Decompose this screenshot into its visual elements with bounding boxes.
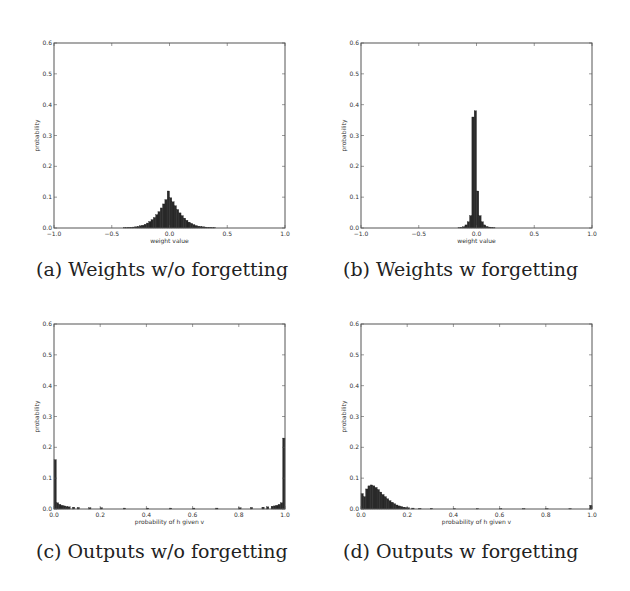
y-axis-label: probability [340, 400, 348, 432]
y-tick-label: 0.3 [349, 413, 359, 420]
y-tick-label: 0.6 [349, 320, 359, 327]
histogram-bar [386, 499, 388, 509]
histogram-bar [384, 497, 386, 509]
y-tick-label: 0.4 [349, 382, 359, 389]
x-tick-label: 1.0 [587, 511, 597, 518]
y-tick-label: 0.5 [349, 351, 359, 358]
panel-d-outputs-with-forgetting: 0.00.10.20.30.40.50.60.00.20.40.60.81.0p… [0, 0, 630, 591]
x-axis-ticks: 0.00.20.40.60.81.0 [356, 324, 597, 518]
y-tick-label: 0.1 [349, 474, 359, 481]
histogram-bar [389, 501, 391, 509]
y-tick-label: 0.2 [349, 443, 359, 450]
x-tick-label: 0.6 [495, 511, 505, 518]
histogram-bar [391, 502, 393, 509]
x-tick-label: 0.0 [356, 511, 366, 518]
caption-d: (d) Outputs w forgetting [343, 540, 578, 562]
x-axis-label: probability of h given v [442, 518, 512, 526]
histogram-bar [370, 485, 372, 509]
histogram-bar [393, 504, 395, 509]
histogram-bar [363, 497, 365, 509]
histogram-bar [375, 487, 377, 509]
plot-frame [361, 324, 592, 509]
histogram-bars [361, 485, 592, 509]
x-tick-label: 0.2 [402, 511, 412, 518]
histogram-bar [396, 505, 398, 509]
histogram-bar [379, 492, 381, 509]
histogram-chart-d: 0.00.10.20.30.40.50.60.00.20.40.60.81.0p… [0, 0, 630, 540]
histogram-bar [366, 489, 368, 509]
histogram-bar [373, 486, 375, 509]
histogram-bar [382, 495, 384, 509]
x-tick-label: 0.4 [449, 511, 459, 518]
x-tick-label: 0.8 [541, 511, 551, 518]
y-axis-ticks: 0.00.10.20.30.40.50.6 [349, 320, 592, 512]
histogram-bar [377, 490, 379, 509]
histogram-bar [368, 486, 370, 509]
